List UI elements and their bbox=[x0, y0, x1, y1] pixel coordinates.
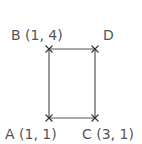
label-point-c: C (3, 1) bbox=[82, 126, 134, 142]
label-point-d: D bbox=[103, 27, 114, 43]
point-labels: A (1, 1) B (1, 4) C (3, 1) D bbox=[5, 27, 134, 142]
label-point-a: A (1, 1) bbox=[5, 126, 57, 142]
point-markers bbox=[46, 46, 99, 122]
label-point-b: B (1, 4) bbox=[11, 27, 63, 43]
diagram-svg: A (1, 1) B (1, 4) C (3, 1) D bbox=[0, 0, 142, 144]
coordinate-rectangle-diagram: A (1, 1) B (1, 4) C (3, 1) D bbox=[0, 0, 142, 144]
rectangle-edges bbox=[49, 49, 95, 118]
